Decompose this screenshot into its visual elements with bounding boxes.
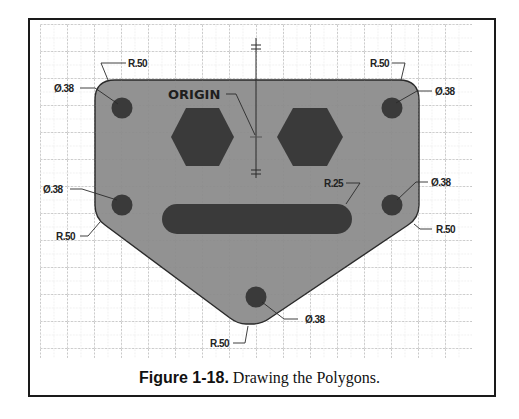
dim-diameter-mid-right: Ø.38 [431, 177, 452, 188]
caption-text: Drawing the Polygons. [229, 369, 380, 386]
cad-sketch: ORIGIN R.50 Ø.38 R.50 Ø.38 Ø.38 R.50 R.2… [0, 0, 519, 419]
dim-radius-mid-left: R.50 [56, 231, 76, 242]
figure-caption: Figure 1-18. Drawing the Polygons. [0, 369, 519, 387]
dim-radius-mid-right: R.50 [436, 224, 456, 235]
dim-diameter-top-left: Ø.38 [54, 83, 75, 94]
hole-bottom [246, 287, 267, 308]
dim-diameter-top-right: Ø.38 [435, 86, 456, 97]
dim-diameter-bottom: Ø.38 [305, 314, 326, 325]
hole-top-left [112, 98, 133, 119]
dim-radius-top-right: R.50 [370, 58, 390, 69]
dim-radius-top-left: R.50 [128, 58, 148, 69]
slot [162, 204, 352, 234]
dim-diameter-mid-left: Ø.38 [43, 184, 64, 195]
caption-label: Figure 1-18. [139, 369, 229, 386]
origin-label: ORIGIN [168, 87, 220, 102]
dim-radius-bottom: R.50 [210, 338, 230, 349]
dim-radius-slot: R.25 [324, 178, 344, 189]
hole-mid-left [112, 195, 133, 216]
